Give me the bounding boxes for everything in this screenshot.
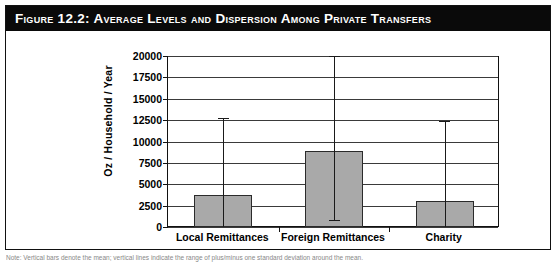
figure-caption: Note: Vertical bars denote the mean; ver… <box>6 254 554 267</box>
y-axis-tick-mark <box>163 163 168 164</box>
y-axis-tick-mark <box>163 120 168 121</box>
error-bar-line <box>445 121 446 227</box>
error-bar-cap-upper <box>329 56 340 57</box>
x-axis-tick-labels: Local RemittancesForeign RemittancesChar… <box>167 231 499 247</box>
y-axis-tick-mark <box>163 206 168 207</box>
figure-title: Figure 12.2: Average Levels and Dispersi… <box>6 11 431 26</box>
plot-area <box>167 56 499 227</box>
error-bar-cap-lower <box>329 220 340 221</box>
error-bar-line <box>223 118 224 227</box>
y-gridline <box>168 99 498 100</box>
y-axis-tick-label: 7500 <box>139 158 162 169</box>
y-axis-tick-mark <box>163 142 168 143</box>
y-axis-tick-label: 0 <box>156 222 162 233</box>
error-bar-cap-upper <box>439 121 450 122</box>
y-gridline <box>168 77 498 78</box>
y-axis-tick-label: 12500 <box>133 115 162 126</box>
y-axis-tick-mark <box>163 77 168 78</box>
y-axis-tick-mark <box>163 184 168 185</box>
y-axis-tick-label: 5000 <box>139 179 162 190</box>
y-axis-tick-mark <box>163 99 168 100</box>
error-bar-line <box>334 56 335 220</box>
x-axis-category-label: Foreign Remittances <box>278 231 389 243</box>
y-axis-tick-label: 17500 <box>133 72 162 83</box>
figure-title-bar: Figure 12.2: Average Levels and Dispersi… <box>6 6 550 31</box>
y-axis-tick-label: 10000 <box>133 136 162 147</box>
x-axis-category-label: Local Remittances <box>167 231 278 243</box>
y-axis-title: Oz / Household / Year <box>102 61 114 181</box>
y-axis-tick-label: 15000 <box>133 94 162 105</box>
x-axis-category-label: Charity <box>388 231 499 243</box>
y-axis-tick-labels: 02500500075001000012500150001750020000 <box>118 56 167 227</box>
y-axis-tick-mark <box>163 227 168 228</box>
y-axis-tick-mark <box>163 56 168 57</box>
y-gridline <box>168 142 498 143</box>
y-axis-tick-label: 20000 <box>133 51 162 62</box>
figure-frame: Figure 12.2: Average Levels and Dispersi… <box>5 5 551 250</box>
error-bar-cap-upper <box>218 118 229 119</box>
chart-plot-container: Oz / Household / Year 025005000750010000… <box>6 31 550 249</box>
y-axis-tick-label: 2500 <box>139 200 162 211</box>
y-gridline <box>168 227 498 228</box>
